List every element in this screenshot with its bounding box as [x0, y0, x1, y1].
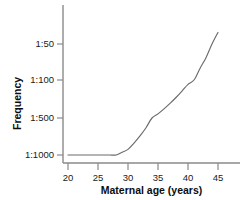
y-axis-title: Frequency — [11, 77, 23, 130]
x-tick-label-35: 35 — [143, 172, 173, 183]
y-tick-label-1-1000: 1:1000 — [3, 149, 54, 160]
x-axis-ticks — [68, 163, 218, 170]
frequency-curve — [68, 32, 218, 155]
x-tick-label-20: 20 — [53, 172, 83, 183]
plot-area — [0, 0, 246, 200]
chart-container: 1:50 1:100 1:500 1:1000 20 25 30 35 40 4… — [0, 0, 246, 200]
y-axis-ticks — [57, 44, 63, 155]
x-tick-label-40: 40 — [173, 172, 203, 183]
x-axis-title: Maternal age (years) — [63, 184, 240, 196]
x-tick-label-25: 25 — [83, 172, 113, 183]
x-tick-label-45: 45 — [203, 172, 233, 183]
x-tick-label-30: 30 — [113, 172, 143, 183]
y-tick-label-1-50: 1:50 — [6, 38, 54, 49]
